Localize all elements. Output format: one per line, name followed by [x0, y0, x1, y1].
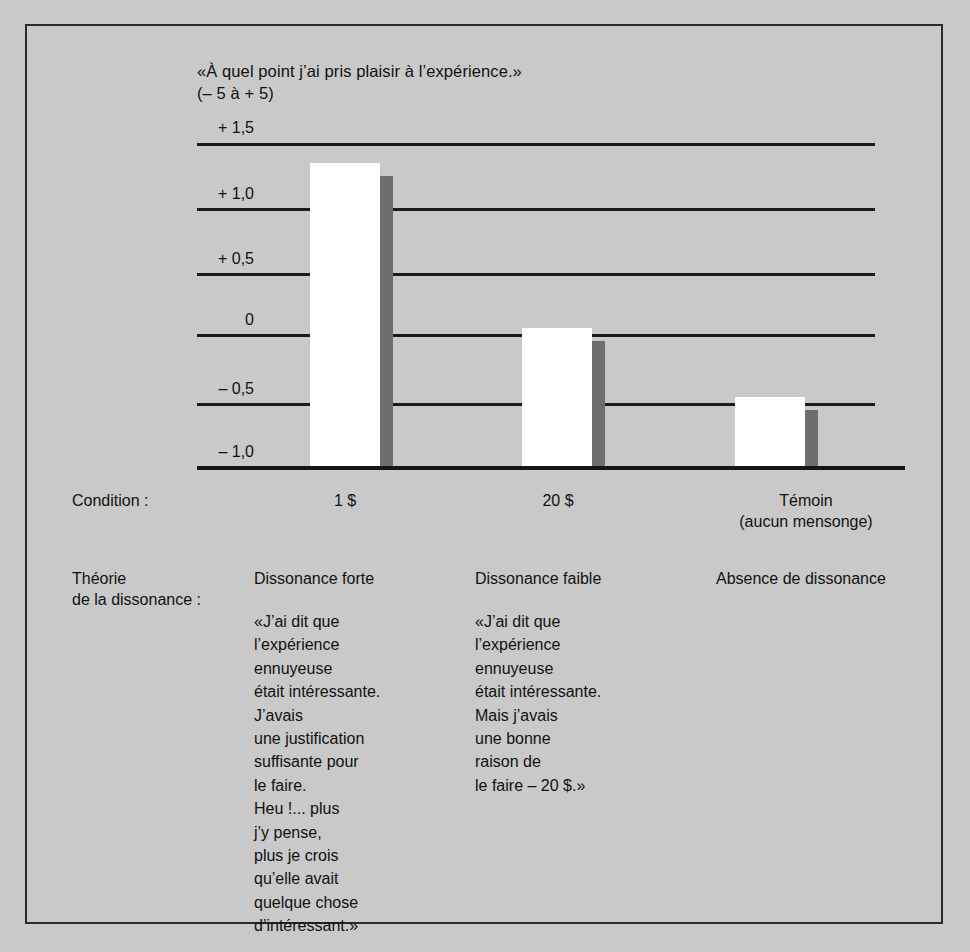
- condition-label-20-dollar: 20 $: [488, 490, 628, 511]
- figure-container: «À quel point j’ai pris plaisir à l’expé…: [0, 0, 970, 952]
- axis-baseline: [197, 466, 905, 470]
- ytick-label-0: 0: [192, 311, 254, 329]
- condition-label-temoin: Témoin: [700, 490, 912, 511]
- y-axis-title: «À quel point j’ai pris plaisir à l’expé…: [197, 60, 522, 104]
- bar-1-dollar-shadow: [380, 176, 393, 466]
- bar-temoin-shadow: [805, 410, 818, 466]
- bar-temoin: [735, 397, 805, 466]
- ytick-label-minus-1.0: – 1,0: [192, 443, 254, 461]
- ytick-label-1.5: + 1,5: [192, 119, 254, 137]
- ytick-label-0.5: + 0,5: [192, 250, 254, 268]
- theory-heading-dissonance-forte: Dissonance forte: [254, 568, 374, 589]
- condition-row-label: Condition :: [72, 490, 149, 511]
- gridline-0.5: [197, 273, 875, 276]
- gridline-1.0: [197, 208, 875, 211]
- ytick-label-1.0: + 1,0: [192, 185, 254, 203]
- bar-20-dollar-shadow: [592, 341, 605, 466]
- ytick-label-minus-0.5: – 0,5: [192, 380, 254, 398]
- theory-row-label-line1: Théorie: [72, 568, 126, 589]
- theory-heading-absence-dissonance: Absence de dissonance: [716, 568, 886, 589]
- theory-row-label-line2: de la dissonance :: [72, 589, 201, 610]
- bar-1-dollar: [310, 163, 380, 466]
- gridline-1.5: [197, 143, 875, 146]
- condition-label-temoin-sub: (aucun mensonge): [700, 511, 912, 532]
- theory-heading-dissonance-faible: Dissonance faible: [475, 568, 601, 589]
- bar-20-dollar: [522, 328, 592, 466]
- theory-quote-dissonance-forte: «J’ai dit que l’expérience ennuyeuse éta…: [254, 610, 380, 938]
- theory-quote-dissonance-faible: «J’ai dit que l’expérience ennuyeuse éta…: [475, 610, 601, 797]
- bar-chart: «À quel point j’ai pris plaisir à l’expé…: [0, 0, 970, 952]
- condition-label-1-dollar: 1 $: [275, 490, 415, 511]
